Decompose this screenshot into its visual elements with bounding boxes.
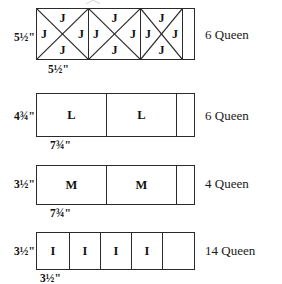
row-j-height-label: 5½" xyxy=(14,32,35,44)
row-j-quadrant-left: J xyxy=(93,28,99,40)
row-i-unit: I xyxy=(70,233,101,269)
row-i-height-label: 3½" xyxy=(14,246,35,258)
row-j-unit: J J J J xyxy=(141,9,183,59)
row-i-quantity: 14 Queen xyxy=(205,244,255,257)
row-j-quadrant-top: J xyxy=(112,12,118,24)
row-j-quadrant-bottom: J xyxy=(112,44,118,56)
row-j-quadrant-top: J xyxy=(159,12,165,24)
row-j-quadrant-top: J xyxy=(60,12,66,24)
row-j-quadrant-left: J xyxy=(41,28,47,40)
row-m-unit-letter: M xyxy=(66,179,78,192)
strip-row-i: 3½" I I I I 3½" 14 Queen xyxy=(0,217,282,284)
row-i-strip: I I I I xyxy=(36,232,195,270)
row-i-unit-letter: I xyxy=(114,245,119,258)
row-j-quadrant-right: J xyxy=(130,28,136,40)
row-j-quadrant-bottom: J xyxy=(159,44,165,56)
row-i-unit-letter: I xyxy=(83,245,88,258)
row-m-height-label: 3½" xyxy=(14,179,35,191)
row-m-unit-letter: M xyxy=(136,179,148,192)
row-j-unit: J J J J xyxy=(37,9,89,59)
strip-row-m: 3½" M M 7¾" 4 Queen xyxy=(0,151,282,217)
row-m-strip: M M xyxy=(36,165,195,205)
row-j-quantity: 6 Queen xyxy=(205,28,249,41)
row-j-remnant xyxy=(183,9,193,59)
row-j-quadrant-right: J xyxy=(78,28,84,40)
row-l-unit-letter: L xyxy=(67,109,75,122)
row-m-quantity: 4 Queen xyxy=(205,177,249,190)
row-i-width-label: 3½" xyxy=(40,273,61,284)
row-m-unit: M xyxy=(107,166,177,204)
row-m-remnant xyxy=(177,166,196,204)
row-l-width-label: 7¾" xyxy=(50,140,71,152)
row-i-unit: I xyxy=(132,233,163,269)
row-i-unit: I xyxy=(101,233,132,269)
row-i-remnant xyxy=(163,233,196,269)
row-j-quadrant-right: J xyxy=(172,28,178,40)
row-j-width-label: 5½" xyxy=(48,64,69,76)
row-j-unit: J J J J xyxy=(89,9,141,59)
row-j-strip: J J J J J J J J J xyxy=(36,8,195,60)
row-l-height-label: 4¾" xyxy=(14,111,35,123)
row-i-unit-letter: I xyxy=(145,245,150,258)
row-i-unit-letter: I xyxy=(51,245,56,258)
row-j-quadrant-left: J xyxy=(145,28,151,40)
cutting-diagram: 5½" J J J J J J J J xyxy=(0,0,282,284)
row-l-unit: L xyxy=(37,94,107,136)
strip-row-j: 5½" J J J J J J J J xyxy=(0,0,282,85)
row-l-quantity: 6 Queen xyxy=(205,109,249,122)
row-l-unit-letter: L xyxy=(137,109,145,122)
row-m-unit: M xyxy=(37,166,107,204)
strip-row-l: 4¾" L L 7¾" 6 Queen xyxy=(0,85,282,151)
row-l-remnant xyxy=(177,94,196,136)
row-l-strip: L L xyxy=(36,93,195,137)
row-i-unit: I xyxy=(37,233,70,269)
row-j-quadrant-bottom: J xyxy=(60,44,66,56)
row-l-unit: L xyxy=(107,94,177,136)
